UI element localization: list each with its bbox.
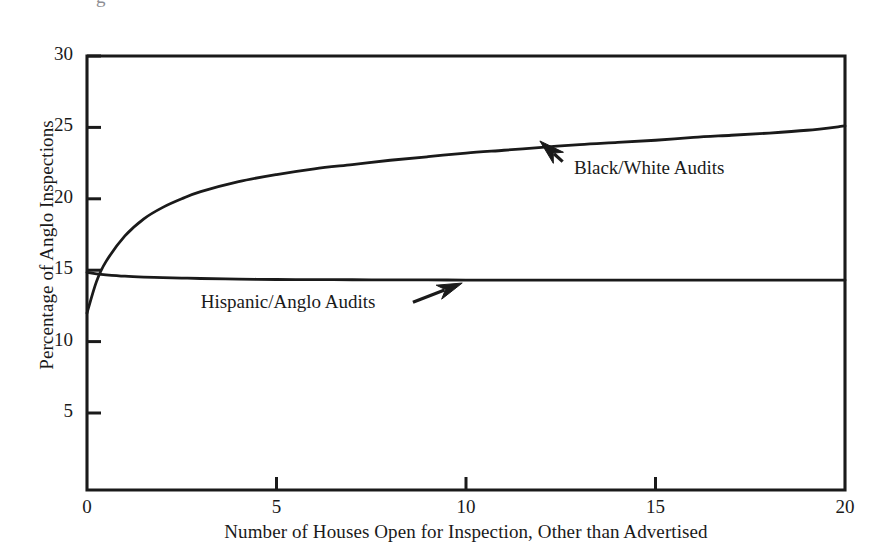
x-axis-ticks [277, 477, 656, 490]
y-tick-label: 10 [33, 329, 73, 351]
series-annotation-label-2: Hispanic/Anglo Audits [201, 291, 376, 313]
x-tick-label: 5 [257, 496, 297, 518]
plot-area [0, 0, 870, 554]
series-annotation-label-1: Black/White Audits [574, 157, 724, 179]
y-tick-label: 15 [33, 257, 73, 279]
y-axis-title: Percentage of Anglo Inspections [36, 40, 62, 450]
y-tick-label: 20 [33, 186, 73, 208]
chart-figure: g Percentage of Anglo Inspections Number… [0, 0, 870, 554]
annotation-arrow-shaft-2 [413, 290, 445, 302]
x-tick-label: 15 [636, 496, 676, 518]
annotation-arrows [413, 141, 564, 302]
plot-frame [87, 56, 845, 490]
y-tick-label: 5 [33, 400, 73, 422]
x-tick-label: 0 [67, 496, 107, 518]
y-axis-ticks [87, 56, 101, 413]
x-tick-label: 20 [825, 496, 865, 518]
y-tick-label: 25 [33, 114, 73, 136]
x-axis-title: Number of Houses Open for Inspection, Ot… [87, 521, 845, 543]
x-tick-label: 10 [446, 496, 486, 518]
series-line-1 [87, 126, 845, 313]
y-tick-label: 30 [33, 43, 73, 65]
series-line-2 [87, 272, 845, 280]
annotation-arrow-shaft-1 [554, 154, 563, 162]
